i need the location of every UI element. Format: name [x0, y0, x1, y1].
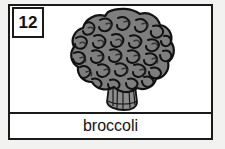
- label-bar: broccoli: [10, 114, 211, 138]
- card-number: 12: [19, 14, 38, 31]
- broccoli-head: [71, 9, 174, 92]
- item-label: broccoli: [83, 118, 138, 134]
- flashcard: 12: [8, 4, 213, 140]
- card-number-box: 12: [12, 7, 44, 38]
